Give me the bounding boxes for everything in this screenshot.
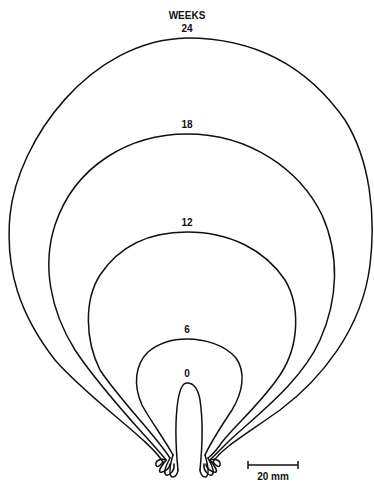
contour-label-6: 6 xyxy=(184,325,190,335)
scale-bar xyxy=(248,461,298,469)
contour-label-0: 0 xyxy=(184,369,190,379)
scale-bar-label: 20 mm xyxy=(257,472,289,482)
contour-week-12 xyxy=(88,232,295,458)
contour-label-18: 18 xyxy=(181,120,192,130)
diagram-header: WEEKS xyxy=(169,11,206,21)
contour-label-24: 24 xyxy=(181,24,192,34)
contour-label-12: 12 xyxy=(181,218,192,228)
contour-svg xyxy=(0,0,374,491)
contour-week-0 xyxy=(176,383,202,470)
contour-week-24 xyxy=(9,38,372,462)
